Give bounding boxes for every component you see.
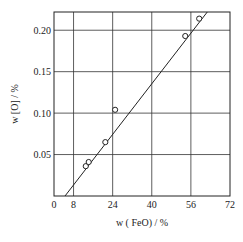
chart: 0824405672 0.050.100.150.20 w ( FeO) / %… (0, 0, 243, 242)
data-point-circle (197, 16, 202, 21)
data-point-circle (113, 107, 118, 112)
data-point-circle (103, 140, 108, 145)
x-tick-label: 8 (71, 199, 76, 210)
data-point-circle (183, 33, 188, 38)
data-point-circle (86, 159, 91, 164)
y-tick-labels: 0.050.100.150.20 (34, 25, 52, 160)
x-tick-labels: 0824405672 (52, 199, 236, 210)
grid (54, 12, 230, 196)
y-tick-label: 0.20 (34, 25, 52, 36)
x-tick-label: 72 (225, 199, 235, 210)
x-tick-label: 56 (186, 199, 196, 210)
y-tick-label: 0.10 (34, 108, 52, 119)
y-tick-label: 0.15 (34, 66, 52, 77)
y-axis-label: w [O] / % (9, 84, 20, 124)
data-points (83, 16, 202, 169)
x-tick-label: 0 (52, 199, 57, 210)
x-axis-label: w ( FeO) / % (116, 217, 168, 229)
x-tick-label: 24 (108, 199, 118, 210)
y-tick-label: 0.05 (34, 149, 52, 160)
x-tick-label: 40 (147, 199, 157, 210)
plot-frame (54, 12, 230, 196)
